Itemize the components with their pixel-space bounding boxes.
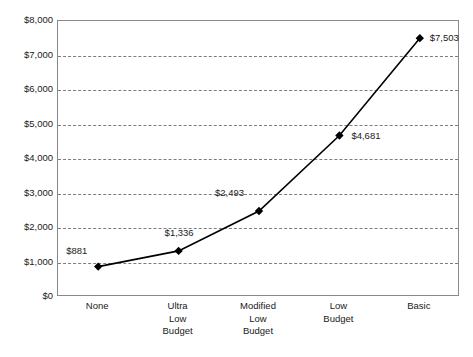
x-axis-tick-line: Basic [371,300,467,313]
series-line [98,38,420,266]
x-axis-tick-labels: NoneUltraLowBudgetModifiedLowBudgetLowBu… [57,300,459,355]
y-axis-tick-label: $5,000 [1,119,53,129]
data-point-label: $2,493 [215,187,244,198]
y-axis-tick-labels: $0$1,000$2,000$3,000$4,000$5,000$6,000$7… [0,20,53,296]
y-axis-tick-label: $8,000 [1,15,53,25]
data-point-marker [94,262,102,270]
x-axis-tick-line: Budget [290,313,386,326]
y-axis-tick-label: $1,000 [1,257,53,267]
data-point-label: $1,336 [165,227,194,238]
y-axis-tick-label: $6,000 [1,84,53,94]
x-axis-tick-label: Basic [371,300,467,313]
y-axis-tick-label: $2,000 [1,222,53,232]
y-axis-tick-label: $0 [1,291,53,301]
y-axis-tick-label: $7,000 [1,50,53,60]
data-point-label: $7,503 [430,32,459,43]
y-axis-tick-label: $4,000 [1,153,53,163]
data-point-label: $881 [66,245,87,256]
data-point-marker [174,247,182,255]
data-series [58,21,460,297]
y-axis-tick-label: $3,000 [1,188,53,198]
line-chart: $0$1,000$2,000$3,000$4,000$5,000$6,000$7… [0,0,473,357]
data-point-label: $4,681 [351,130,380,141]
plot-area: $881$1,336$2,493$4,681$7,503 [57,20,459,296]
x-axis-tick-line: Budget [210,325,306,338]
